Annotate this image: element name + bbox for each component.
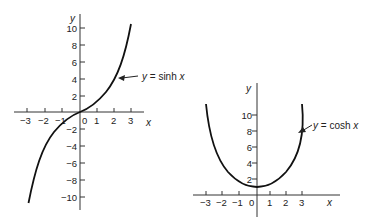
svg-text:4: 4 (247, 158, 252, 169)
svg-text:8: 8 (247, 126, 252, 137)
svg-text:−3: −3 (200, 197, 211, 208)
cosh-y-axis-label: y (245, 83, 252, 94)
svg-text:8: 8 (72, 40, 77, 51)
cosh-y-ticks (252, 115, 257, 179)
svg-text:1: 1 (267, 197, 272, 208)
svg-text:2: 2 (283, 197, 288, 208)
svg-text:−6: −6 (66, 158, 77, 169)
svg-text:2: 2 (247, 174, 252, 185)
cosh-y-tick-labels: 10 8 6 4 2 (241, 110, 252, 185)
svg-text:10: 10 (241, 110, 252, 121)
cosh-curve-label: y = cosh x (312, 120, 359, 131)
arrowhead-icon (118, 75, 125, 81)
svg-text:−2: −2 (66, 124, 77, 135)
svg-text:2: 2 (72, 91, 77, 102)
cosh-x-tick-labels: −3 −2 −1 0 1 2 3 (200, 197, 304, 208)
sinh-y-tick-labels: 10 8 6 4 2 −2 −4 −6 −8 −10 (61, 23, 77, 203)
cosh-x-ticks (206, 191, 302, 195)
svg-text:3: 3 (299, 197, 304, 208)
svg-text:−3: −3 (20, 115, 31, 126)
svg-text:0: 0 (82, 115, 87, 126)
cosh-curve (206, 104, 303, 187)
sinh-x-ticks (27, 108, 131, 112)
svg-text:−2: −2 (216, 197, 227, 208)
cosh-chart: y x −3 −2 −1 0 1 2 3 10 8 (193, 83, 359, 217)
sinh-curve-label: y = sinh x (141, 71, 186, 82)
svg-text:3: 3 (128, 115, 133, 126)
svg-text:−2: −2 (38, 115, 49, 126)
svg-text:6: 6 (247, 142, 252, 153)
svg-text:1: 1 (94, 115, 99, 126)
svg-text:4: 4 (72, 74, 77, 85)
svg-text:0: 0 (249, 197, 254, 208)
cosh-x-axis-label: x (326, 197, 333, 208)
svg-text:−8: −8 (66, 175, 77, 186)
svg-text:−10: −10 (61, 192, 77, 203)
svg-text:2: 2 (111, 115, 116, 126)
svg-text:6: 6 (72, 57, 77, 68)
sinh-chart: y x −3 −2 −1 0 1 2 3 (14, 13, 186, 210)
hyperbolic-functions-figure: y x −3 −2 −1 0 1 2 3 (0, 0, 366, 223)
sinh-x-axis-label: x (145, 117, 152, 128)
svg-text:−4: −4 (66, 141, 77, 152)
svg-text:−1: −1 (232, 197, 243, 208)
svg-text:10: 10 (66, 23, 77, 34)
